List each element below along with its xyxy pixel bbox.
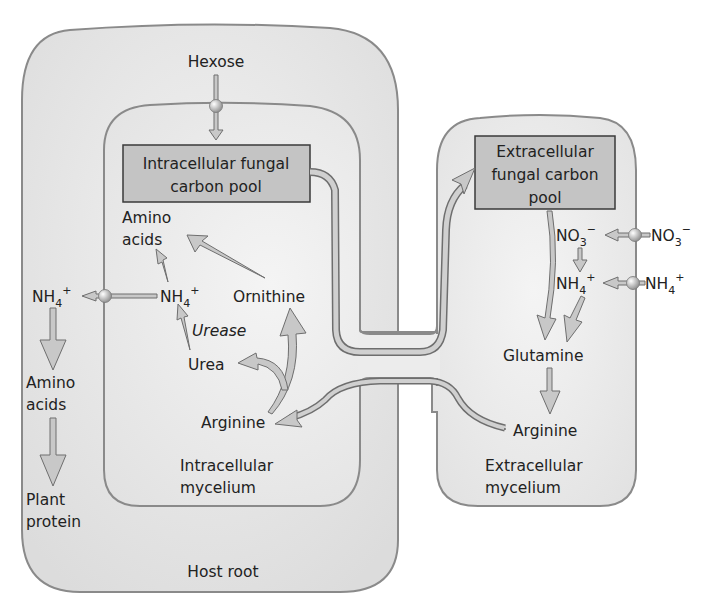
mycorrhizal-nitrogen-diagram: Intracellular fungal carbon pool Extrace…	[0, 0, 712, 611]
amino-acids-fungal-line2: acids	[122, 231, 162, 249]
arginine-intracellular-label: Arginine	[201, 414, 265, 432]
extracellular-pool-line3: pool	[528, 189, 561, 207]
no3-outside-label: NO3−	[651, 223, 691, 249]
extracellular-mycelium-line1: Extracellular	[485, 457, 583, 475]
arginine-extracellular-label: Arginine	[513, 422, 577, 440]
nh4-extracellular-outside-label: NH4+	[645, 271, 684, 297]
glutamine-label: Glutamine	[503, 347, 583, 365]
amino-acids-plant-line1: Amino	[26, 374, 75, 392]
intracellular-pool-line2: carbon pool	[170, 178, 262, 196]
intracellular-mycelium-line1: Intracellular	[180, 457, 274, 475]
hexose-label: Hexose	[188, 53, 245, 71]
amino-acids-plant-line2: acids	[26, 396, 66, 414]
urea-label: Urea	[188, 356, 224, 374]
ornithine-label: Ornithine	[233, 288, 305, 306]
intracellular-pool-line1: Intracellular fungal	[143, 155, 290, 173]
extracellular-mycelium-line2: mycelium	[485, 479, 561, 497]
extracellular-pool-line1: Extracellular	[496, 143, 594, 161]
urease-label: Urease	[192, 322, 246, 340]
host-root-label: Host root	[187, 563, 258, 581]
plant-protein-line2: protein	[26, 513, 81, 531]
nh4-transporter-icon	[99, 290, 112, 303]
no3-transporter-icon	[629, 229, 642, 242]
amino-acids-fungal-line1: Amino	[122, 209, 171, 227]
extracellular-pool-line2: fungal carbon	[491, 166, 598, 184]
nh4-uptake-transporter-icon	[627, 277, 640, 290]
intracellular-mycelium-line2: mycelium	[180, 479, 256, 497]
plant-protein-line1: Plant	[26, 491, 65, 509]
hexose-transporter-icon	[210, 100, 223, 113]
